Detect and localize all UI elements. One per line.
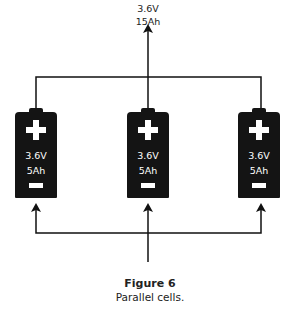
cell-voltage: 3.6V — [127, 150, 169, 162]
cell-capacity: 5Ah — [15, 165, 57, 177]
cell-capacity: 5Ah — [127, 165, 169, 177]
figure-title: Figure 6 — [70, 277, 230, 290]
positive-terminal — [141, 108, 155, 114]
minus-icon — [252, 183, 266, 188]
cell-voltage: 3.6V — [238, 150, 280, 162]
minus-icon — [141, 183, 155, 188]
figure-caption: Parallel cells. — [70, 291, 230, 303]
plus-icon — [249, 120, 269, 140]
positive-terminal — [252, 108, 266, 114]
cell-voltage: 3.6V — [15, 150, 57, 162]
plus-icon — [26, 120, 46, 140]
output-voltage-label: 3.6V — [118, 2, 178, 15]
cell-capacity: 5Ah — [238, 165, 280, 177]
battery-cell-center: 3.6V 5Ah — [127, 112, 169, 198]
plus-icon — [138, 120, 158, 140]
positive-terminal — [29, 108, 43, 114]
output-capacity-label: 15Ah — [118, 15, 178, 28]
battery-cell-right: 3.6V 5Ah — [238, 112, 280, 198]
battery-cell-left: 3.6V 5Ah — [15, 112, 57, 198]
minus-icon — [29, 183, 43, 188]
